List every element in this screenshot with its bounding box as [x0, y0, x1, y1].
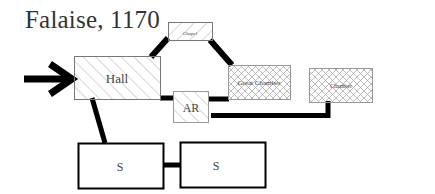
room-ar-label: AR: [183, 101, 200, 115]
room-s-2-label: S: [213, 159, 220, 173]
room-ar: AR: [174, 92, 209, 123]
room-great-chamber: Great Chamber: [229, 66, 291, 100]
room-hall-label: Hall: [106, 71, 129, 86]
entrance-arrow-icon: [24, 64, 72, 94]
floor-plan-diagram: Hall Chapel Great Chamber Chamber AR S S: [0, 0, 435, 194]
room-s-2: S: [181, 143, 266, 188]
room-chamber-label: Chamber: [330, 83, 352, 89]
room-chapel: Chapel: [169, 23, 213, 41]
room-chamber: Chamber: [310, 69, 373, 103]
room-great-chamber-label: Great Chamber: [238, 79, 282, 87]
room-hall: Hall: [75, 57, 161, 100]
room-s-1-label: S: [117, 160, 124, 174]
room-chapel-label: Chapel: [183, 31, 198, 36]
room-s-1: S: [79, 144, 164, 189]
